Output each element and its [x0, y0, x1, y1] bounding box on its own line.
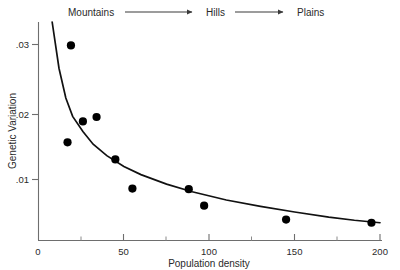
data-point [367, 219, 375, 227]
x-tick-label-150: 150 [287, 246, 303, 257]
y-tick-label-01: .01 [16, 174, 29, 185]
data-point [111, 155, 119, 163]
plot-axes [38, 22, 382, 241]
trend-curve [52, 22, 380, 223]
x-tick-label-200: 200 [372, 246, 388, 257]
genetic-variation-scatter-chart: Mountains Hills Plains .03 .02 .01 0 50 … [0, 0, 400, 270]
data-point [79, 117, 87, 125]
y-axis-title: Genetic Variation [7, 93, 18, 169]
y-axis-ticks: .03 .02 .01 [16, 39, 39, 185]
x-tick-label-0: 0 [35, 246, 40, 257]
data-point [63, 138, 71, 146]
x-tick-label-50: 50 [118, 246, 129, 257]
y-tick-label-03: .03 [16, 39, 29, 50]
gradient-label-mountains: Mountains [68, 7, 114, 18]
data-point [200, 202, 208, 210]
habitat-gradient-annotation: Mountains Hills Plains [68, 7, 324, 18]
data-point [128, 184, 136, 192]
gradient-label-hills: Hills [206, 7, 225, 18]
gradient-label-plains: Plains [297, 7, 324, 18]
data-point [282, 216, 290, 224]
x-tick-label-100: 100 [201, 246, 217, 257]
data-point [185, 185, 193, 193]
x-axis-ticks: 0 50 100 150 200 [35, 234, 388, 257]
data-point [67, 41, 75, 49]
data-point [92, 113, 100, 121]
x-axis-title: Population density [168, 258, 250, 269]
